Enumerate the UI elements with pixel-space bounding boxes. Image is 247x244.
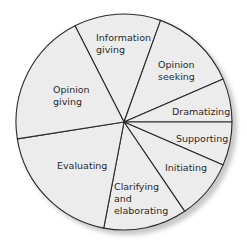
pie-chart: Information giving Opinion seeking Drama… (0, 0, 247, 244)
slice-label-initiating: Initiating (165, 162, 207, 173)
slice-label-dramatizing: Dramatizing (172, 106, 230, 117)
slice-label-opinion-seeking: Opinion seeking (158, 59, 198, 82)
slice-label-evaluating: Evaluating (57, 160, 107, 171)
slice-label-supporting: Supporting (176, 133, 228, 144)
